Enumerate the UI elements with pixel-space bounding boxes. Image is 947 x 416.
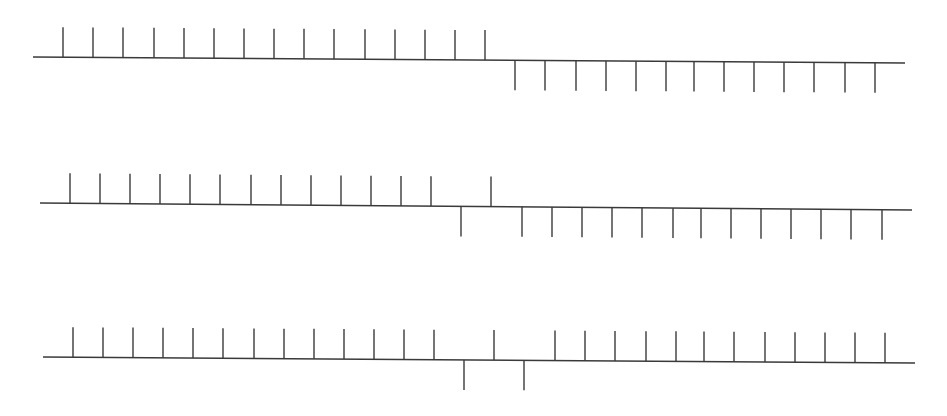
baseline [43,357,915,363]
row-3 [43,327,915,390]
baseline [40,203,912,210]
row-1 [33,27,905,93]
tick-line-diagram [0,0,947,416]
baseline [33,57,905,63]
row-2 [40,173,912,240]
